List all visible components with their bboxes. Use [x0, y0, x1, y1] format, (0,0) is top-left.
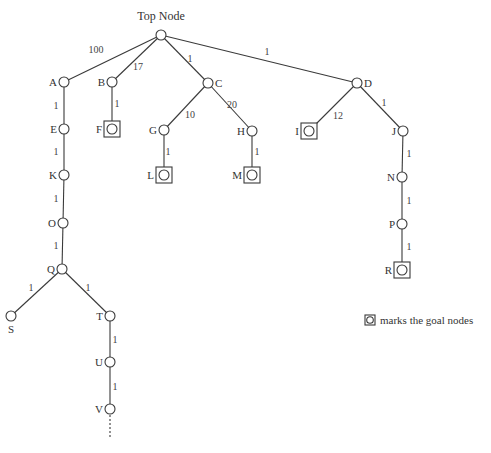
node-label-H: H: [237, 125, 245, 137]
node-circle-icon: [57, 264, 67, 274]
node-circle-icon: [159, 170, 169, 180]
node-label-T: T: [96, 310, 103, 322]
node-circle-icon: [105, 311, 115, 321]
node-label-R: R: [385, 264, 393, 276]
edge-weight-top-C: 1: [188, 53, 193, 64]
node-circle-icon: [107, 124, 117, 134]
node-circle-icon: [398, 126, 408, 136]
edge-weight-top-B: 17: [133, 61, 143, 72]
tree-edges: [11, 35, 403, 438]
node-O: O: [48, 217, 68, 229]
search-tree-diagram: 1001711111020121111111111111 ABCDEFGHIJK…: [0, 0, 491, 453]
node-B: B: [98, 76, 117, 88]
node-label-S: S: [8, 323, 14, 335]
edge-weight-K-O: 1: [54, 193, 59, 204]
edge-Q-S: [11, 269, 62, 316]
node-K: K: [49, 169, 69, 181]
node-label-C: C: [215, 77, 222, 89]
edge-top-C: [161, 35, 208, 83]
node-label-E: E: [50, 123, 57, 135]
node-U: U: [95, 356, 115, 368]
edge-weight-D-J: 1: [382, 97, 387, 108]
node-I: I: [295, 123, 317, 139]
edge-top-A: [64, 35, 161, 82]
edge-top-B: [112, 35, 161, 82]
root-label: Top Node: [137, 9, 184, 23]
edge-weight-J-N: 1: [407, 148, 412, 159]
node-circle-icon: [59, 124, 69, 134]
node-circle-icon: [397, 265, 407, 275]
node-circle-icon: [159, 125, 169, 135]
edge-weight-Q-S: 1: [29, 282, 34, 293]
edge-D-J: [357, 83, 403, 131]
edge-weight-top-D: 1: [265, 46, 270, 57]
node-L: L: [147, 167, 172, 183]
node-label-P: P: [389, 218, 395, 230]
node-label-U: U: [95, 356, 103, 368]
edge-weight-G-L: 1: [166, 146, 171, 157]
node-circle-icon: [247, 126, 257, 136]
node-top: [156, 30, 166, 40]
legend-text: marks the goal nodes: [380, 314, 473, 326]
node-circle-icon: [203, 78, 213, 88]
node-label-D: D: [364, 77, 372, 89]
node-circle-icon: [59, 77, 69, 87]
node-label-G: G: [149, 124, 157, 136]
node-circle-icon: [105, 357, 115, 367]
node-circle-icon: [352, 78, 362, 88]
edge-weight-O-Q: 1: [54, 240, 59, 251]
node-label-J: J: [392, 125, 397, 137]
edge-K-O: [63, 175, 64, 223]
node-circle-icon: [105, 404, 115, 414]
node-J: J: [392, 125, 408, 137]
node-label-M: M: [232, 169, 242, 181]
node-label-F: F: [96, 123, 102, 135]
node-V: V: [95, 403, 115, 415]
node-circle-icon: [59, 170, 69, 180]
edge-weight-Q-T: 1: [86, 282, 91, 293]
node-label-O: O: [48, 217, 56, 229]
edge-O-Q: [62, 223, 63, 269]
edge-weight-T-U: 1: [113, 334, 118, 345]
node-label-N: N: [387, 171, 395, 183]
node-label-Q: Q: [47, 263, 55, 275]
node-label-A: A: [49, 76, 57, 88]
legend: marks the goal nodes: [365, 314, 473, 326]
node-F: F: [96, 121, 120, 137]
tree-nodes: ABCDEFGHIJKLMNOPQRSTUV: [6, 30, 410, 415]
node-circle-icon: [304, 126, 314, 136]
edge-C-G: [164, 83, 208, 130]
node-D: D: [352, 77, 372, 89]
node-circle-icon: [247, 170, 257, 180]
node-A: A: [49, 76, 69, 88]
node-label-V: V: [95, 403, 103, 415]
edge-weight-E-K: 1: [54, 146, 59, 157]
node-P: P: [389, 218, 407, 230]
node-label-K: K: [49, 169, 57, 181]
edge-weight-B-F: 1: [115, 98, 120, 109]
node-H: H: [237, 125, 257, 137]
node-E: E: [50, 123, 69, 135]
edge-weight-N-P: 1: [407, 195, 412, 206]
node-circle-icon: [397, 219, 407, 229]
node-circle-icon: [156, 30, 166, 40]
node-C: C: [203, 77, 222, 89]
node-circle-icon: [6, 311, 16, 321]
node-label-L: L: [147, 169, 154, 181]
edge-weight-H-M: 1: [255, 146, 260, 157]
node-G: G: [149, 124, 169, 136]
node-circle-icon: [107, 77, 117, 87]
edge-weight-P-R: 1: [407, 241, 412, 252]
node-S: S: [6, 311, 16, 335]
goal-marker-circle-icon: [367, 317, 374, 324]
edge-weight-C-H: 20: [227, 99, 237, 110]
edge-J-N: [402, 131, 403, 177]
edge-weight-U-V: 1: [113, 381, 118, 392]
node-label-B: B: [98, 76, 105, 88]
edge-weight-C-G: 10: [185, 109, 195, 120]
node-M: M: [232, 167, 260, 183]
node-circle-icon: [397, 172, 407, 182]
node-N: N: [387, 171, 407, 183]
node-label-I: I: [295, 125, 299, 137]
node-R: R: [385, 262, 410, 278]
